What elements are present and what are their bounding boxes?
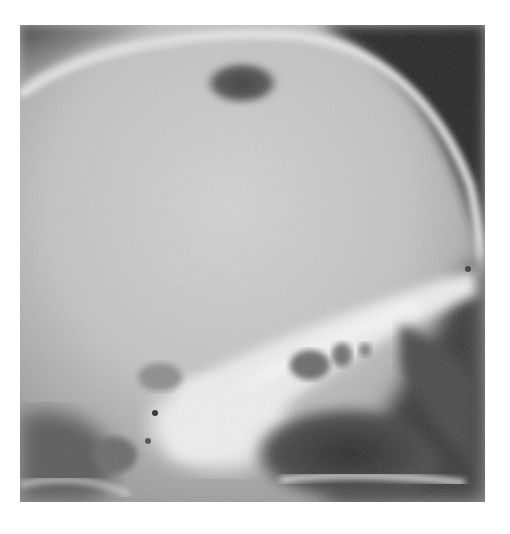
skull-radiograph xyxy=(20,25,485,502)
film-grain xyxy=(20,25,485,502)
radiograph-image xyxy=(20,25,485,502)
page xyxy=(0,0,510,534)
